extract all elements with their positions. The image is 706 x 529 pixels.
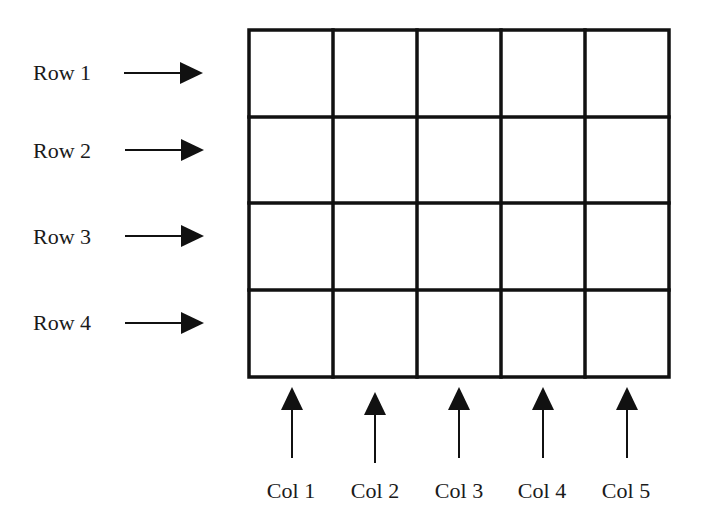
row-label-4: Row 4 bbox=[33, 312, 91, 334]
row-label-2: Row 2 bbox=[33, 140, 91, 162]
col-4-arrow-icon bbox=[532, 387, 554, 458]
col-label-3: Col 3 bbox=[435, 480, 483, 502]
row-label-3: Row 3 bbox=[33, 226, 91, 248]
grid-diagram bbox=[0, 0, 706, 529]
col-arrows bbox=[281, 387, 638, 463]
col-label-4: Col 4 bbox=[518, 480, 566, 502]
col-5-arrow-icon bbox=[616, 387, 638, 458]
row-label-1: Row 1 bbox=[33, 62, 91, 84]
col-1-arrow-icon bbox=[281, 387, 303, 458]
col-3-arrow-icon bbox=[448, 387, 470, 458]
row-3-arrow-icon bbox=[125, 225, 204, 247]
col-label-1: Col 1 bbox=[267, 480, 315, 502]
row-1-arrow-icon bbox=[124, 62, 203, 84]
row-4-arrow-icon bbox=[125, 312, 204, 334]
col-label-2: Col 2 bbox=[351, 480, 399, 502]
grid bbox=[249, 30, 669, 377]
col-2-arrow-icon bbox=[364, 392, 386, 463]
row-arrows bbox=[124, 62, 204, 334]
col-label-5: Col 5 bbox=[602, 480, 650, 502]
row-2-arrow-icon bbox=[125, 139, 204, 161]
